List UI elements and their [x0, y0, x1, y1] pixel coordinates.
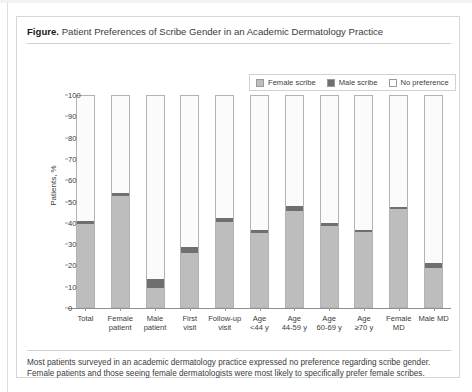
bars-container	[68, 95, 451, 308]
chart-plot-area: Patients, % 0102030405060708090100TotalF…	[27, 95, 451, 345]
figure-title-text: Patient Preferences of Scribe Gender in …	[62, 26, 384, 37]
bar-stack-9	[389, 95, 408, 308]
bar-segment-female-scribe-7	[321, 226, 338, 307]
bar-group-2[interactable]	[146, 95, 165, 308]
y-tick-mark-3	[65, 244, 68, 245]
bar-group-6[interactable]	[285, 95, 304, 308]
bar-segment-no-preference-6	[286, 96, 303, 206]
page-edge-left	[7, 3, 8, 392]
y-tick-mark-8	[65, 137, 68, 138]
bar-stack-8	[354, 95, 373, 308]
bar-segment-no-preference-10	[425, 96, 442, 263]
caption-divider	[27, 350, 451, 351]
y-tick-mark-7	[65, 158, 68, 159]
y-tick-mark-2	[65, 265, 68, 266]
bar-segment-no-preference-2	[147, 96, 164, 279]
y-tick-mark-9	[65, 116, 68, 117]
y-tick-mark-0	[65, 308, 68, 309]
x-tick-mark-6	[294, 308, 295, 311]
legend-label-2: No preference	[401, 78, 449, 87]
x-tick-mark-0	[85, 308, 86, 311]
caption-line-1: Most patients surveyed in an academic de…	[27, 357, 451, 368]
legend-label-1: Male scribe	[339, 78, 378, 87]
legend-swatch-icon-0	[256, 79, 264, 87]
bar-stack-4	[215, 95, 234, 308]
bar-segment-no-preference-3	[181, 96, 198, 247]
bar-group-1[interactable]	[111, 95, 130, 308]
bar-stack-2	[146, 95, 165, 308]
legend-label-0: Female scribe	[268, 78, 316, 87]
bar-group-0[interactable]	[76, 95, 95, 308]
y-tick-mark-6	[65, 180, 68, 181]
bar-segment-no-preference-0	[77, 96, 94, 220]
bar-segment-no-preference-9	[390, 96, 407, 207]
bar-stack-3	[180, 95, 199, 308]
x-tick-mark-8	[364, 308, 365, 311]
caption-line-2: Female patients and those seeing female …	[27, 368, 451, 379]
x-tick-mark-5	[260, 308, 261, 311]
bar-group-5[interactable]	[250, 95, 269, 308]
x-axis-label-10-line-0: Male MD	[412, 314, 455, 323]
bar-group-7[interactable]	[320, 95, 339, 308]
bar-group-10[interactable]	[424, 95, 443, 308]
figure-caption: Most patients surveyed in an academic de…	[27, 357, 451, 380]
bar-segment-male-scribe-2	[147, 279, 164, 288]
x-axis-label-10: Male MD	[412, 314, 455, 323]
y-tick-mark-1	[65, 286, 68, 287]
bar-segment-female-scribe-1	[112, 196, 129, 307]
bar-segment-no-preference-7	[321, 96, 338, 223]
x-tick-mark-2	[155, 308, 156, 311]
legend-swatch-icon-1	[327, 79, 335, 87]
figure-label: Figure.	[27, 26, 59, 37]
legend-item-1: Male scribe	[327, 78, 378, 87]
bar-segment-female-scribe-9	[390, 209, 407, 307]
bar-segment-no-preference-4	[216, 96, 233, 218]
legend-item-0: Female scribe	[256, 78, 316, 87]
x-tick-mark-9	[399, 308, 400, 311]
bar-segment-female-scribe-0	[77, 224, 94, 307]
figure-title: Figure. Patient Preferences of Scribe Ge…	[27, 26, 451, 38]
x-tick-mark-10	[434, 308, 435, 311]
bar-stack-0	[76, 95, 95, 308]
bar-segment-female-scribe-10	[425, 268, 442, 307]
bar-segment-female-scribe-5	[251, 233, 268, 307]
bar-segment-female-scribe-3	[181, 253, 198, 307]
bar-group-3[interactable]	[180, 95, 199, 308]
bar-stack-7	[320, 95, 339, 308]
bar-group-9[interactable]	[389, 95, 408, 308]
y-axis-label: Patients, %	[49, 151, 58, 221]
y-tick-mark-10	[65, 95, 68, 96]
chart-legend: Female scribeMale scribeNo preference	[249, 74, 456, 91]
title-divider	[27, 43, 451, 44]
bar-segment-female-scribe-4	[216, 222, 233, 307]
legend-item-2: No preference	[389, 78, 449, 87]
x-tick-mark-3	[190, 308, 191, 311]
bar-group-8[interactable]	[354, 95, 373, 308]
bar-segment-no-preference-1	[112, 96, 129, 193]
bar-stack-5	[250, 95, 269, 308]
bar-segment-female-scribe-6	[286, 211, 303, 307]
bar-segment-no-preference-5	[251, 96, 268, 230]
bar-segment-no-preference-8	[355, 96, 372, 230]
bar-stack-1	[111, 95, 130, 308]
bar-stack-10	[424, 95, 443, 308]
figure-card: Figure. Patient Preferences of Scribe Ge…	[16, 16, 460, 378]
x-tick-mark-1	[120, 308, 121, 311]
x-tick-mark-7	[329, 308, 330, 311]
y-tick-mark-5	[65, 201, 68, 202]
page-edge-top	[0, 0, 472, 3]
x-tick-mark-4	[225, 308, 226, 311]
legend-swatch-icon-2	[389, 79, 397, 87]
bar-segment-female-scribe-2	[147, 288, 164, 307]
y-tick-mark-4	[65, 222, 68, 223]
bar-stack-6	[285, 95, 304, 308]
bar-segment-female-scribe-8	[355, 232, 372, 307]
x-axis-label-9-line-1: MD	[377, 323, 420, 332]
bar-group-4[interactable]	[215, 95, 234, 308]
